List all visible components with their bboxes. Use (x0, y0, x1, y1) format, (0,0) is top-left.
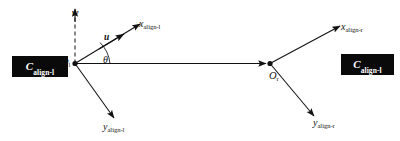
theta-angle-label: θ (103, 50, 108, 66)
frame-label-sub-right: align-l (361, 67, 382, 76)
origin-label-left: Ol (61, 52, 70, 68)
frame-label-box-left: Calign-l (12, 56, 68, 77)
u-vector-label: u (104, 27, 109, 43)
frame-label-base-left: C (26, 61, 33, 72)
w-vector-label: w (72, 3, 78, 19)
y-axis-label-left: yalign-l (103, 117, 124, 133)
x-axis-label-right: xalign-r (341, 17, 363, 33)
origin-label-right: Or (269, 66, 279, 82)
frame-label-sub-left: align-l (33, 69, 54, 78)
u-vector (99, 34, 124, 49)
origin-left-dot (72, 61, 77, 66)
frame-label-box-right: Calign-l (341, 54, 394, 75)
y-axis-left (75, 64, 114, 119)
frame-label-base-right: C (353, 59, 360, 70)
x-axis-label-left: xalign-l (139, 14, 160, 30)
y-axis-label-right: yalign-r (313, 113, 335, 129)
x-axis-right (270, 26, 340, 64)
figure-canvas: Calign-l Calign-l w u θ Ol Or xalign-l y… (0, 0, 400, 141)
